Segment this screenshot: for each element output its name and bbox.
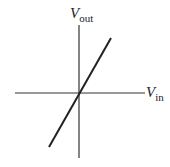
y-axis-label: Vout [70, 6, 93, 24]
x-axis-label-main: V [146, 84, 155, 100]
y-axis-label-main: V [70, 5, 79, 21]
transfer-plot [0, 0, 170, 167]
x-axis-label: Vin [146, 85, 164, 103]
y-axis-label-sub: out [79, 12, 93, 24]
x-axis-label-sub: in [155, 91, 164, 103]
